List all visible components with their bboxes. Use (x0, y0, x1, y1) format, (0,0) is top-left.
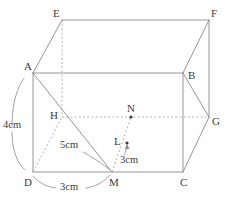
vertex-label-f: F (211, 7, 217, 19)
edge-B-F (183, 20, 209, 73)
edge-A-E (33, 20, 62, 73)
point-marker-l (125, 141, 128, 144)
point-label-n: N (127, 102, 135, 114)
vertex-label-c: C (180, 176, 187, 188)
vertex-label-d: D (24, 176, 32, 188)
vertex-label-g: G (212, 115, 220, 127)
measure-4cm-AD-text: 4cm (3, 119, 21, 130)
measure-3cm-DM-text: 3cm (60, 181, 78, 192)
point-label-l: L (114, 135, 121, 147)
point-marker-n (129, 115, 132, 118)
point-label-m: M (109, 176, 119, 188)
edge-D-H (33, 117, 62, 172)
geometry-diagram: ABCDEFGH MNL 4cm5cm3cm3cm (0, 0, 228, 202)
vertex-label-b: B (188, 69, 195, 81)
vertex-label-h: H (50, 109, 58, 121)
vertex-label-a: A (24, 60, 32, 72)
measure-3cm-to-L-arrowhead (125, 145, 130, 150)
measure-5cm-to-M-leader (83, 152, 110, 170)
edge-C-G (183, 117, 209, 172)
point-markers-group (125, 115, 132, 144)
measure-5cm-to-M-text: 5cm (60, 139, 78, 150)
edge-B-G (183, 73, 209, 117)
measure-3cm-DM-arc-left (33, 176, 56, 188)
edge-A-M (33, 73, 112, 172)
measure-3cm-DM-arc-right (86, 175, 110, 188)
point-labels-group: MNL (109, 102, 135, 188)
diagram-canvas: ABCDEFGH MNL 4cm5cm3cm3cm (0, 0, 228, 202)
vertex-label-e: E (53, 7, 60, 19)
measure-3cm-to-L-text: 3cm (120, 154, 138, 165)
